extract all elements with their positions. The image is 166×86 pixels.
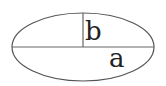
label-b: b (85, 16, 102, 46)
label-a: a (109, 43, 125, 73)
ellipse-diagram: b a (0, 0, 166, 86)
